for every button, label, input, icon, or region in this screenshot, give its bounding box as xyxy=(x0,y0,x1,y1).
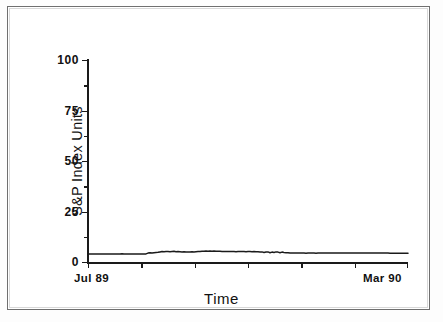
plot-area: 0255075100 xyxy=(88,60,408,262)
y-tick-label: 75 xyxy=(64,104,79,118)
y-tick-label: 50 xyxy=(64,154,79,168)
x-tick xyxy=(195,262,196,268)
x-tick xyxy=(88,262,89,268)
x-tick xyxy=(248,262,249,268)
y-tick-label: 0 xyxy=(72,255,79,269)
data-series-sp-index xyxy=(88,60,408,262)
y-tick-label: 25 xyxy=(64,205,79,219)
x-tick xyxy=(301,262,302,268)
x-axis-title: Time xyxy=(0,290,443,307)
x-tick xyxy=(407,262,408,268)
x-tick xyxy=(141,262,142,268)
x-tick xyxy=(355,262,356,268)
x-axis-label-end: Mar 90 xyxy=(363,272,402,284)
figure-container: S&P Index Units 0255075100 Jul 89 Mar 90… xyxy=(0,0,443,322)
y-tick-label: 100 xyxy=(57,53,79,67)
x-axis-label-start: Jul 89 xyxy=(74,272,109,284)
